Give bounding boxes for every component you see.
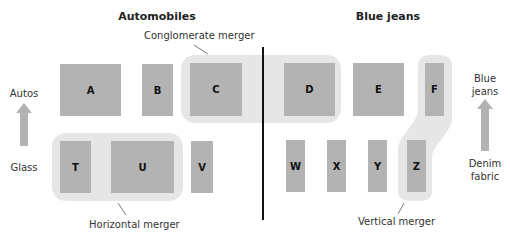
horizontal-merger-label: Horizontal merger bbox=[89, 219, 180, 230]
right-top-label-blue-jeans: Blue jeans bbox=[472, 72, 499, 98]
right-bottom-label-line1: Denim bbox=[469, 157, 502, 170]
left-bottom-label-glass: Glass bbox=[10, 161, 37, 174]
right-bottom-label-denim-fabric: Denim fabric bbox=[469, 157, 502, 183]
arrow-up-icon-left bbox=[16, 103, 32, 146]
conglomerate-leader-line bbox=[194, 45, 208, 54]
right-top-label-line1: Blue bbox=[472, 72, 499, 85]
right-top-label-line2: jeans bbox=[472, 85, 499, 98]
vertical-merger-label: Vertical merger bbox=[358, 216, 435, 227]
vertical-leader-line bbox=[398, 203, 404, 214]
right-bottom-label-line2: fabric bbox=[469, 170, 502, 183]
arrow-up-icon-right bbox=[477, 99, 493, 151]
conglomerate-merger-label: Conglomerate merger bbox=[144, 30, 255, 41]
arrows-and-leaders bbox=[0, 0, 510, 241]
horizontal-leader-line bbox=[118, 203, 126, 215]
left-top-label-autos: Autos bbox=[10, 87, 38, 100]
